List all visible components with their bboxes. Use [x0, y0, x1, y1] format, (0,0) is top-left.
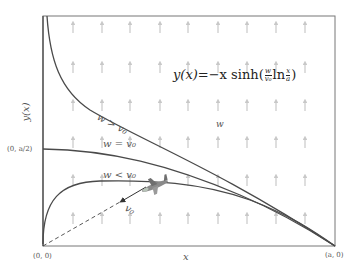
- fraction-x-over-a: xa: [286, 68, 290, 83]
- curve-label-w-equal-v0: w = v₀: [103, 139, 136, 149]
- curve-w-less-v0: [43, 181, 335, 246]
- equation-lhs: y(x): [173, 67, 198, 82]
- ln-text: ln: [273, 67, 286, 82]
- y-mid-label: (0, a/2): [7, 146, 32, 153]
- fraction-w-over-v0: wv₀: [265, 68, 272, 83]
- airplane-icon: [139, 172, 172, 199]
- equation: y(x)=−x sinh(wv₀lnxa): [173, 68, 296, 83]
- y-axis-label: y(x): [21, 102, 31, 121]
- frac-denominator: a: [286, 76, 290, 83]
- curve-w-equal-v0: [43, 149, 335, 246]
- line-of-sight: [43, 202, 120, 246]
- wind-label: w: [216, 120, 224, 129]
- curve-w-greater-v0: [47, 16, 335, 246]
- equation-close: ): [291, 67, 296, 82]
- plot-frame: [43, 16, 335, 246]
- pursuit-curve-diagram: [0, 0, 352, 270]
- equation-rhs: =−x sinh(: [198, 67, 264, 82]
- x-axis-label: x: [183, 252, 189, 262]
- velocity-vector: [122, 187, 146, 201]
- x-end-label: (a, 0): [325, 252, 344, 259]
- frac-denominator: v₀: [265, 76, 272, 83]
- curve-label-w-less-v0: w < v₀: [103, 170, 136, 180]
- origin-label: (0, 0): [33, 253, 52, 260]
